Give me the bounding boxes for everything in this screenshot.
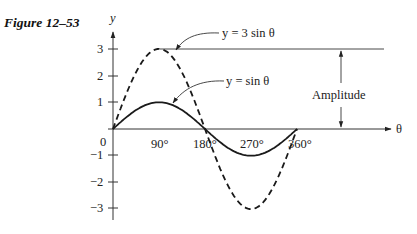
x-tick-270: 270° bbox=[240, 137, 264, 151]
sine-amplitude-figure: Figure 12–53 y θ 3 2 1 −1 −2 −3 0 90° 18… bbox=[0, 0, 417, 234]
y-axis-label: y bbox=[108, 11, 116, 25]
amplitude-label: Amplitude bbox=[312, 88, 366, 102]
x-tick-90: 90° bbox=[151, 137, 169, 151]
y-tick-3: 3 bbox=[97, 42, 103, 56]
sin-leader-arrow bbox=[173, 81, 224, 103]
y-tick-1: 1 bbox=[97, 95, 103, 109]
theta-axis-label: θ bbox=[396, 122, 402, 136]
y-tick-minus-2: −2 bbox=[90, 175, 103, 189]
three-sin-leader-arrow bbox=[176, 33, 219, 50]
figure-caption: Figure 12–53 bbox=[3, 15, 80, 30]
y-tick-2: 2 bbox=[97, 69, 103, 83]
origin-label: 0 bbox=[100, 135, 106, 149]
y-tick-minus-3: −3 bbox=[90, 201, 103, 215]
three-sin-label: y = 3 sin θ bbox=[222, 26, 275, 40]
sin-label: y = sin θ bbox=[226, 74, 269, 88]
y-tick-labels: 3 2 1 −1 −2 −3 bbox=[90, 42, 103, 215]
y-tick-minus-1: −1 bbox=[90, 148, 103, 162]
